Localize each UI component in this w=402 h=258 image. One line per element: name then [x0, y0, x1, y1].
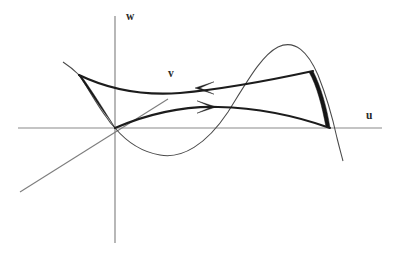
cusp-bifurcation-diagram: w u v	[0, 0, 402, 258]
upper-thick-curve	[79, 71, 313, 94]
upper-flow-arrow	[195, 82, 214, 94]
v-axis-label: v	[168, 68, 174, 80]
w-axis-label: w	[126, 11, 135, 23]
lower-thick-curve	[115, 107, 330, 128]
v-axis-line	[20, 99, 168, 192]
u-axis-label: u	[366, 110, 373, 122]
diagram-canvas	[0, 0, 402, 258]
